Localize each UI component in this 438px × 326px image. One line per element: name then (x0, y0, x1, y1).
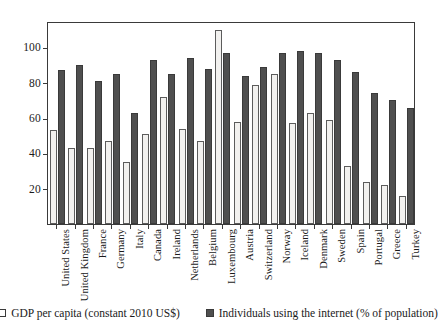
bar-gdp (123, 162, 130, 224)
bar-group (50, 23, 65, 224)
bar-internet (150, 60, 157, 224)
x-axis-label-text: United States (60, 229, 71, 287)
y-tick-label: 80 (29, 76, 41, 90)
bar-gdp (344, 166, 351, 224)
y-tick-label: 100 (23, 40, 41, 54)
x-axis-label: Germany (115, 229, 126, 269)
bar-gdp (381, 185, 388, 224)
x-axis-label-text: Spain (355, 229, 366, 253)
x-axis-label: Turkey (410, 229, 421, 260)
x-axis-label-text: United Kingdom (79, 229, 90, 301)
x-axis-label: Luxembourg (226, 229, 237, 284)
bar-group (197, 23, 212, 224)
bar-gdp (399, 196, 406, 224)
bar-group (87, 23, 102, 224)
bar-group (344, 23, 359, 224)
x-axis-labels: United StatesUnited KingdomFranceGermany… (47, 229, 415, 301)
bar-internet (76, 65, 83, 224)
x-axis-label-text: Denmark (318, 229, 329, 269)
x-axis-label-text: Turkey (410, 229, 421, 260)
bar-internet (407, 108, 414, 225)
bar-gdp (271, 74, 278, 224)
bar-internet (260, 67, 267, 224)
legend-item-internet: Individuals using the internet (% of pop… (206, 306, 438, 320)
bar-group (381, 23, 396, 224)
bar-internet (223, 53, 230, 224)
x-axis-label: Sweden (336, 229, 347, 263)
bar-gdp (50, 130, 57, 224)
bar-gdp (252, 85, 259, 224)
bars-layer (48, 23, 414, 224)
bar-gdp (234, 122, 241, 224)
bar-group (307, 23, 322, 224)
bar-group (234, 23, 249, 224)
legend-item-gdp: GDP per capita (constant 2010 US$) (0, 306, 180, 320)
x-axis-label-text: Iceland (299, 229, 310, 261)
y-tick-label: 60 (29, 111, 41, 125)
y-tick-label: 40 (29, 146, 41, 160)
bar-internet (297, 51, 304, 224)
bar-gdp (142, 134, 149, 224)
bar-gdp (326, 120, 333, 224)
x-axis-label: Canada (152, 229, 163, 261)
bar-internet (95, 81, 102, 224)
x-axis-label: Belgium (207, 229, 218, 266)
x-axis-label-text: Canada (152, 229, 163, 261)
x-axis-label-text: Portugal (373, 229, 384, 265)
bar-gdp (68, 148, 75, 224)
chart-legend: GDP per capita (constant 2010 US$) Indiv… (0, 303, 436, 323)
bar-group (326, 23, 341, 224)
bar-internet (371, 93, 378, 224)
bar-group (123, 23, 138, 224)
bar-internet (352, 72, 359, 224)
bar-internet (205, 69, 212, 224)
bar-internet (113, 74, 120, 224)
x-axis-label: Switzerland (263, 229, 274, 280)
bar-internet (187, 58, 194, 224)
x-axis-label-text: France (97, 229, 108, 258)
bar-group (252, 23, 267, 224)
x-axis-label: Denmark (318, 229, 329, 269)
bar-gdp (307, 113, 314, 224)
bar-group (271, 23, 286, 224)
bar-gdp (363, 182, 370, 224)
bar-group (215, 23, 230, 224)
bar-internet (131, 113, 138, 224)
x-axis-label-text: Switzerland (263, 229, 274, 280)
filled-square-icon (206, 309, 214, 317)
x-axis-label-text: Sweden (336, 229, 347, 263)
bar-internet (242, 76, 249, 224)
y-axis: 20406080100 (0, 22, 47, 225)
open-square-icon (0, 309, 6, 317)
x-axis-label: Norway (281, 229, 292, 263)
x-axis-label-text: Ireland (171, 229, 182, 259)
bar-internet (279, 53, 286, 224)
bar-internet (315, 53, 322, 224)
x-axis-label: Greece (391, 229, 402, 259)
bar-gdp (215, 30, 222, 224)
x-axis-label: United Kingdom (79, 229, 90, 301)
x-axis-label: Iceland (299, 229, 310, 261)
bar-gdp (87, 148, 94, 224)
bar-internet (389, 100, 396, 224)
x-axis-label-text: Greece (391, 229, 402, 259)
bar-group (289, 23, 304, 224)
x-axis-label-text: Italy (134, 229, 145, 249)
bar-group (399, 23, 414, 224)
y-tick-label: 20 (29, 182, 41, 196)
x-axis-label: Austria (244, 229, 255, 261)
bar-gdp (105, 141, 112, 224)
x-axis-label-text: Belgium (207, 229, 218, 266)
x-axis-label-text: Netherlands (189, 229, 200, 281)
bar-gdp (160, 97, 167, 224)
x-axis-label: Portugal (373, 229, 384, 265)
legend-label-internet: Individuals using the internet (% of pop… (219, 306, 438, 320)
bar-internet (58, 70, 65, 224)
x-axis-label-text: Norway (281, 229, 292, 263)
bar-gdp (179, 129, 186, 224)
x-axis-label: Spain (355, 229, 366, 253)
bar-group (68, 23, 83, 224)
x-axis-label-text: Austria (244, 229, 255, 261)
x-axis-label-text: Germany (115, 229, 126, 269)
